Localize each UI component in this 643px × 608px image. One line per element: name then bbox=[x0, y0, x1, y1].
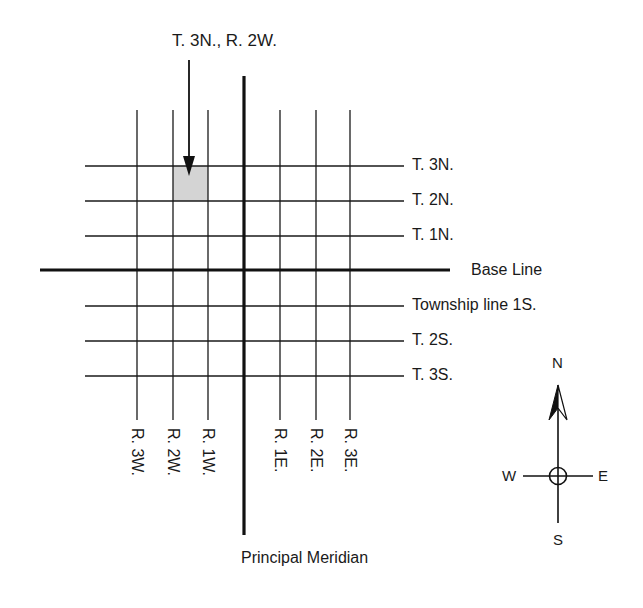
range-label-2w: R. 2W. bbox=[164, 428, 182, 476]
township-label-3n: T. 3N. bbox=[412, 156, 454, 174]
township-label-3s: T. 3S. bbox=[412, 366, 453, 384]
range-label-1e: R. 1E. bbox=[271, 428, 289, 472]
compass-west-label: W bbox=[502, 468, 516, 484]
highlighted-township-cell bbox=[173, 166, 208, 201]
compass-north-label: N bbox=[552, 355, 563, 371]
principal-meridian-label: Principal Meridian bbox=[241, 549, 368, 567]
callout-label: T. 3N., R. 2W. bbox=[172, 32, 277, 50]
callout-arrow-icon bbox=[183, 60, 195, 176]
compass-rose-icon bbox=[523, 385, 593, 523]
compass-east-label: E bbox=[598, 468, 608, 484]
range-label-1w: R. 1W. bbox=[199, 428, 217, 476]
range-label-3e: R. 3E. bbox=[341, 428, 359, 472]
township-label-1n: T. 1N. bbox=[412, 226, 454, 244]
base-line-label: Base Line bbox=[471, 261, 542, 279]
township-label-2n: T. 2N. bbox=[412, 191, 454, 209]
range-label-2e: R. 2E. bbox=[307, 428, 325, 472]
township-label-1s: Township line 1S. bbox=[412, 296, 537, 314]
compass-south-label: S bbox=[553, 532, 563, 548]
township-label-2s: T. 2S. bbox=[412, 331, 453, 349]
survey-grid-diagram bbox=[0, 0, 643, 608]
range-label-3w: R. 3W. bbox=[128, 428, 146, 476]
